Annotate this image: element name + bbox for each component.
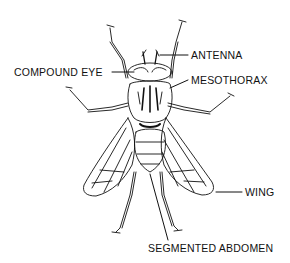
abdomen — [135, 129, 166, 172]
label-compound-eye: COMPOUND EYE — [14, 67, 103, 78]
label-wing: WING — [245, 187, 274, 198]
label-antenna: ANTENNA — [191, 50, 243, 61]
label-segmented-abdomen: SEGMENTED ABDOMEN — [148, 243, 273, 254]
wing-left — [84, 118, 135, 196]
fly-illustration — [0, 0, 290, 263]
segmented-abdomen-leader — [150, 174, 168, 240]
mesothorax-leader — [170, 80, 188, 88]
wing-right — [161, 118, 213, 195]
label-mesothorax: MESOTHORAX — [191, 75, 268, 86]
